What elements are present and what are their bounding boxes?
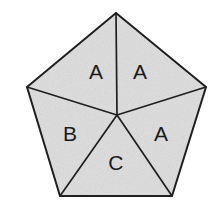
region-label-top-right: A: [133, 60, 147, 83]
pentagon-figure: A A A C B: [0, 0, 220, 210]
region-label-left: B: [63, 122, 77, 145]
region-label-top-left: A: [89, 60, 103, 83]
region-label-bottom: C: [108, 151, 123, 174]
divider-to-apex: [116, 13, 117, 115]
region-label-right: A: [154, 122, 168, 145]
